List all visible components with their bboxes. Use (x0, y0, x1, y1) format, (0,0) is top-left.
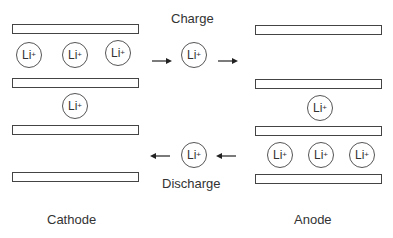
cathode-ion: Li+ (105, 40, 131, 66)
arrow-left-icon (149, 152, 171, 160)
ion-symbol: Li (22, 48, 31, 62)
cathode-ion: Li+ (16, 42, 42, 68)
ion-charge: + (323, 150, 328, 159)
ion-symbol: Li (355, 148, 364, 162)
arrow-left-icon (215, 152, 237, 160)
ion-symbol: Li (313, 101, 322, 115)
ion-charge: + (364, 150, 369, 159)
ion-charge: + (282, 150, 287, 159)
anode-ion: Li+ (349, 142, 375, 168)
ion-symbol: Li (68, 48, 77, 62)
anode-label: Anode (294, 212, 332, 227)
ion-charge: + (196, 50, 201, 59)
ion-symbol: Li (187, 48, 196, 62)
anode-ion: Li+ (267, 142, 293, 168)
anode-ion: Li+ (307, 95, 333, 121)
arrow-right-icon (151, 57, 173, 65)
anode-plate-2 (255, 79, 382, 89)
anode-plate-1 (255, 25, 382, 35)
discharge-ion: Li+ (181, 142, 207, 168)
cathode-label: Cathode (47, 212, 96, 227)
ion-symbol: Li (111, 46, 120, 60)
ion-charge: + (77, 50, 82, 59)
cathode-plate-3 (12, 125, 139, 135)
arrow-right-icon (217, 57, 239, 65)
ion-symbol: Li (187, 148, 196, 162)
ion-charge: + (322, 103, 327, 112)
ion-charge: + (196, 150, 201, 159)
cathode-plate-2 (12, 78, 139, 88)
ion-charge: + (31, 50, 36, 59)
cathode-ion: Li+ (62, 42, 88, 68)
discharge-label: Discharge (162, 176, 221, 191)
anode-plate-4 (255, 174, 382, 184)
anode-ion: Li+ (308, 142, 334, 168)
ion-symbol: Li (68, 99, 77, 113)
charge-ion: Li+ (181, 42, 207, 68)
ion-charge: + (120, 48, 125, 57)
anode-plate-3 (255, 126, 382, 136)
ion-symbol: Li (273, 148, 282, 162)
charge-label: Charge (171, 11, 214, 26)
cathode-plate-1 (12, 24, 139, 34)
ion-charge: + (77, 101, 82, 110)
cathode-plate-4 (12, 172, 139, 182)
cathode-ion: Li+ (62, 93, 88, 119)
ion-symbol: Li (314, 148, 323, 162)
